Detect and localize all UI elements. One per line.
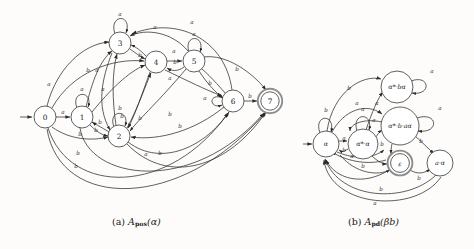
edge-label: b: [342, 147, 346, 153]
edge-label: b: [324, 107, 328, 113]
edge-label: a: [192, 31, 195, 37]
edge-label: a: [80, 86, 83, 92]
state-label-astar-baa: α*·b·aα: [388, 122, 412, 129]
edge-label: b: [98, 119, 102, 125]
edge-label: a: [361, 106, 364, 112]
self-loop-astar-baa: [417, 117, 434, 132]
edge-label: a: [95, 67, 98, 73]
caption-a-arg: (α): [147, 216, 161, 227]
edge-label: a: [118, 11, 121, 17]
edge-label: b: [235, 66, 239, 72]
edge-label: a: [373, 200, 376, 206]
caption-b-sub: pd: [371, 220, 380, 227]
edge-label: a: [342, 135, 345, 141]
edge-label: b: [118, 105, 122, 111]
edge-label: b: [138, 115, 142, 121]
self-loop-6: [212, 97, 223, 106]
edge-label: b: [138, 52, 142, 58]
edge-label: b: [380, 141, 384, 147]
edge-label: b: [74, 163, 78, 169]
edge-label: b: [158, 150, 162, 156]
edge-label: a: [101, 86, 104, 92]
caption-panel-b: (b) Apd(βb): [348, 216, 399, 227]
state-label-1: 1: [80, 113, 85, 122]
automata-figure-svg: 0 1 2 3 4 5 6 7 a a b a a a a b a a b b …: [0, 0, 474, 249]
edge-labels-a: a a b a a a a b a a b b b b b a b a a b …: [47, 11, 252, 169]
caption-a-tag: (a): [112, 216, 125, 227]
state-label-astar-a: α*·α: [356, 140, 370, 147]
state-label-7: 7: [268, 97, 273, 106]
edge-label: a: [372, 117, 375, 123]
edge-label: b: [120, 113, 124, 119]
caption-a-name: A: [128, 216, 135, 227]
state-label-3: 3: [118, 39, 123, 48]
edge-label: b: [379, 186, 383, 192]
edge-label: b: [419, 138, 423, 144]
edge-label: a: [438, 105, 441, 111]
panel-a-automaton: 0 1 2 3 4 5 6 7 a a b a a a a b a a b b …: [20, 11, 282, 189]
edge-label: a: [61, 109, 64, 115]
caption-b-arg: (βb): [380, 216, 399, 227]
panel-b-automaton: α α*·α α*·bα α*·b·aα ε a·α b a a a a b b…: [303, 68, 453, 206]
edge-label: b: [178, 123, 182, 129]
edge-label: a: [375, 100, 378, 106]
edge-label: a: [430, 68, 433, 74]
state-label-0: 0: [43, 113, 48, 122]
edge-label: b: [76, 150, 80, 156]
edge-label: a: [190, 19, 193, 25]
caption-b-tag: (b): [348, 216, 362, 227]
edge-label: a: [168, 75, 171, 81]
edge-label: b: [208, 80, 212, 86]
figure-canvas: 0 1 2 3 4 5 6 7 a a b a a a a b a a b b …: [0, 0, 474, 249]
edge-label: b: [78, 131, 82, 137]
states-a: [34, 32, 282, 147]
state-label-a-alpha: a·α: [435, 159, 446, 166]
caption-panel-a: (a) Apos(α): [112, 216, 161, 227]
edge-label: a: [47, 81, 50, 87]
state-label-6: 6: [231, 97, 236, 106]
edge-label: b: [173, 59, 177, 65]
states-b: [313, 71, 453, 176]
edge-label: b: [248, 93, 252, 99]
state-label-astar-ba: α*·bα: [388, 83, 406, 90]
edge-label: b: [347, 85, 351, 91]
state-label-5: 5: [192, 57, 197, 66]
edge-label: b: [86, 67, 90, 73]
edge-label: b: [361, 163, 365, 169]
edge-label: a: [350, 153, 353, 159]
state-label-2: 2: [117, 132, 122, 141]
edge-label: a: [144, 151, 147, 157]
state-label-alpha: α: [324, 140, 329, 147]
edge-label: a: [153, 24, 156, 30]
edge-label: b: [168, 111, 172, 117]
edge-label: b: [94, 127, 98, 133]
edge-label: b: [417, 175, 421, 181]
caption-a-sub: pos: [135, 220, 147, 227]
state-label-4: 4: [154, 58, 159, 67]
edge-label: a: [172, 48, 175, 54]
edge-label: a: [355, 100, 358, 106]
edge-label: a: [203, 95, 206, 101]
